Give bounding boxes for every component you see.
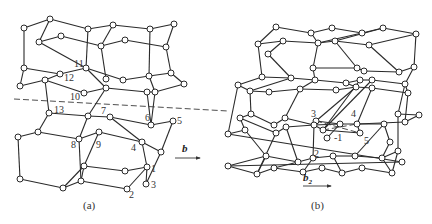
bond-line <box>125 40 166 47</box>
atom-node <box>354 121 360 127</box>
atom-node <box>283 124 289 130</box>
atom-node <box>315 40 321 46</box>
bond-line <box>258 27 276 44</box>
atom-label: 2 <box>129 189 134 200</box>
bond-line <box>369 34 416 45</box>
bond-line <box>228 156 266 166</box>
bond-line <box>24 68 60 74</box>
atom-node <box>329 25 335 31</box>
atom-label: 13 <box>54 104 64 115</box>
atom-node <box>158 149 164 155</box>
bond-line <box>84 166 125 171</box>
bond-line <box>398 84 405 114</box>
atom-node <box>107 114 113 120</box>
atom-node <box>21 65 27 71</box>
atom-node <box>98 43 104 49</box>
atom-node <box>46 110 52 116</box>
bond-line <box>364 71 399 72</box>
bond-line <box>38 132 79 139</box>
atom-node <box>402 81 408 87</box>
bond-line <box>383 28 416 34</box>
bond-line <box>18 137 20 179</box>
bond-line <box>88 25 113 29</box>
bond-line <box>166 47 171 73</box>
bond-line <box>79 139 81 181</box>
bond-line <box>101 40 125 46</box>
atom-label: -1 <box>334 132 342 143</box>
bond-line <box>262 77 291 78</box>
atom-node <box>395 111 401 117</box>
atom-node <box>312 77 318 83</box>
atom-node <box>81 90 87 96</box>
bond-line <box>155 84 184 92</box>
panel-b-caption: (b) <box>311 199 324 212</box>
atom-node <box>42 77 48 83</box>
atom-node <box>47 16 53 22</box>
atom-node <box>143 181 149 187</box>
atom-node <box>171 21 177 27</box>
atom-node <box>85 26 91 32</box>
atom-node <box>21 25 27 31</box>
atom-node <box>353 84 359 90</box>
bond-line <box>274 168 303 172</box>
bond-line <box>113 25 150 29</box>
atom-node <box>295 159 301 165</box>
atom-node <box>248 111 254 117</box>
bond-line <box>123 76 149 80</box>
panel-a-lattice: 11121013765894132 b (a) <box>14 16 228 212</box>
atom-label: 10 <box>70 91 80 102</box>
atom-node <box>168 70 174 76</box>
atom-node <box>399 159 405 165</box>
atom-node <box>225 131 231 137</box>
bond-line <box>335 41 357 68</box>
atom-node <box>354 65 360 71</box>
atom-node <box>380 25 386 31</box>
atom-node <box>35 129 41 135</box>
atom-label: 8 <box>71 139 76 150</box>
atom-node <box>413 31 419 37</box>
bond-line <box>79 116 88 139</box>
bond-line <box>362 168 392 173</box>
atom-node <box>366 42 372 48</box>
panel-a-b-vector: b <box>175 142 200 158</box>
atom-node <box>361 68 367 74</box>
atom-node <box>15 134 21 140</box>
atom-node <box>17 176 23 182</box>
atom-node <box>343 80 349 86</box>
atom-node <box>411 64 417 70</box>
bond-line <box>20 80 45 86</box>
atom-node <box>181 81 187 87</box>
bond-line <box>335 41 369 45</box>
atom-node <box>225 163 231 169</box>
bond-line <box>315 80 346 83</box>
atom-label: 6 <box>145 112 150 123</box>
bond-line <box>285 89 300 118</box>
atom-node <box>402 119 408 125</box>
atom-node <box>120 77 126 83</box>
bond-line <box>50 19 88 29</box>
bond-line <box>61 36 101 46</box>
bond-line <box>228 166 257 174</box>
atom-node <box>310 65 316 71</box>
atom-node <box>359 165 365 171</box>
atom-node <box>387 139 393 145</box>
atom-node <box>242 127 248 133</box>
bond-line <box>300 89 336 90</box>
atom-node <box>60 185 66 191</box>
bond-line <box>106 88 147 92</box>
bond-line <box>45 80 49 113</box>
atom-node <box>396 69 402 75</box>
atom-node <box>83 65 89 71</box>
atom-node <box>265 51 271 57</box>
bond-line <box>266 156 298 162</box>
atom-node <box>357 77 363 83</box>
atom-node <box>110 22 116 28</box>
atom-label: 12 <box>64 72 74 83</box>
b-vector-label: b <box>182 142 188 154</box>
atom-node <box>311 122 317 128</box>
bond-line <box>151 92 155 125</box>
atom-node <box>17 83 23 89</box>
panel-a-atoms <box>15 16 187 192</box>
atom-node <box>76 136 82 142</box>
bond-line <box>228 85 238 134</box>
